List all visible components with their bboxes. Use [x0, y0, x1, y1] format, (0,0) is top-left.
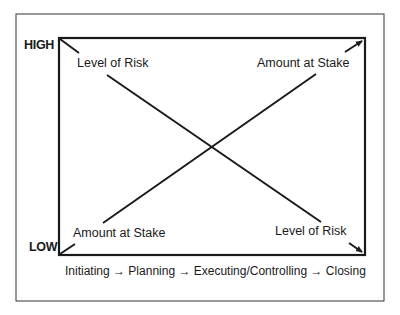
y-axis-high-label: HIGH [24, 38, 54, 52]
y-axis-low-label: LOW [29, 240, 57, 254]
stake-line [60, 41, 362, 254]
risk-line [60, 39, 362, 252]
risk-end-label: Level of Risk [275, 224, 347, 238]
phase-sequence-caption: Initiating → Planning → Executing/Contro… [65, 264, 366, 278]
stake-end-label: Amount at Stake [257, 56, 349, 70]
risk-start-label: Level of Risk [77, 56, 149, 70]
stake-start-label: Amount at Stake [73, 226, 165, 240]
